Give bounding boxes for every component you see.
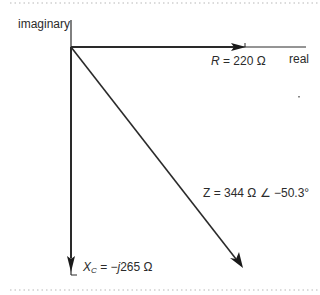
resistance-symbol: R — [211, 54, 220, 68]
real-axis-label: real — [289, 52, 309, 66]
stray-mark — [298, 96, 300, 98]
reactance-symbol: X — [83, 260, 91, 274]
reactance-equals: = − — [97, 260, 118, 274]
phasor-diagram-canvas — [0, 0, 320, 295]
resistance-value: = 220 Ω — [220, 54, 266, 68]
resistance-label: R = 220 Ω — [211, 54, 266, 68]
reactance-label: XC = −j265 Ω — [83, 260, 152, 275]
imaginary-axis-label: imaginary — [18, 17, 70, 31]
reactance-value: 265 Ω — [120, 260, 152, 274]
impedance-label: Z = 344 Ω ∠ −50.3° — [203, 186, 309, 200]
impedance-vector — [71, 47, 236, 259]
